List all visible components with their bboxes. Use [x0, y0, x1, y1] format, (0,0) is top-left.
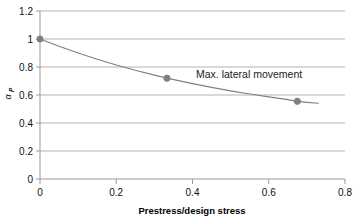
y-tick-label-1.2: 1.2	[19, 6, 33, 17]
y-tick-label-0: 0	[27, 174, 33, 185]
x-tick-label-0.8: 0.8	[338, 187, 352, 198]
annotation-max-lateral-movement: Max. lateral movement	[196, 68, 302, 80]
x-tick-label-0: 0	[37, 187, 43, 198]
x-tick-label-0.2: 0.2	[109, 187, 123, 198]
y-tick-label-0.4: 0.4	[19, 118, 33, 129]
data-point	[164, 75, 170, 81]
data-point	[294, 98, 300, 104]
chart-background	[0, 0, 355, 222]
chart-screenshot: 1.2 1 0.8 0.6 0.4 0.2 0 0 0.2 0.4 0.6 0.…	[0, 0, 355, 222]
y-axis-title-subscript: P	[8, 87, 15, 92]
x-axis-title: Prestress/design stress	[138, 205, 245, 216]
y-axis-title-symbol: α	[3, 94, 13, 100]
y-tick-label-0.8: 0.8	[19, 62, 33, 73]
y-tick-label-1: 1	[27, 34, 33, 45]
data-point	[37, 36, 43, 42]
y-tick-label-0.2: 0.2	[19, 146, 33, 157]
x-tick-label-0.6: 0.6	[262, 187, 276, 198]
y-tick-label-0.6: 0.6	[19, 90, 33, 101]
line-chart: 1.2 1 0.8 0.6 0.4 0.2 0 0 0.2 0.4 0.6 0.…	[0, 0, 355, 222]
x-tick-label-0.4: 0.4	[186, 187, 200, 198]
